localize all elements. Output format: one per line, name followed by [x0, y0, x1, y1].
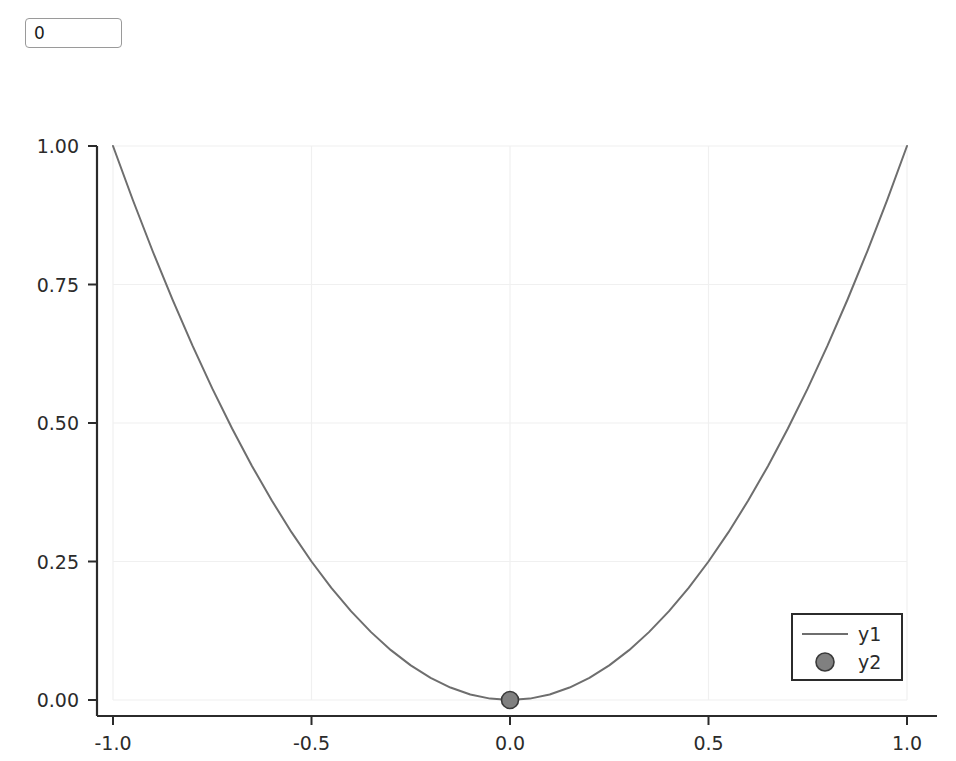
x-axis-tick-label: 0.0 [495, 732, 525, 754]
plot-canvas[interactable]: 0.000.250.500.751.00-1.0-0.50.00.51.0 y1… [0, 56, 956, 761]
legend-entry-label: y2 [858, 651, 881, 673]
y-axis-tick-label: 0.00 [37, 689, 79, 711]
plot-figure: 0.000.250.500.751.00-1.0-0.50.00.51.0 y1… [0, 56, 956, 761]
y-axis-tick-label: 0.25 [37, 551, 79, 573]
x-axis-tick-label: 1.0 [892, 732, 922, 754]
legend-entry-label: y1 [858, 623, 881, 645]
y-axis-tick-label: 1.00 [37, 135, 79, 157]
x-axis-tick-label: 0.5 [693, 732, 723, 754]
legend-box[interactable] [792, 614, 902, 680]
plot-legend[interactable]: y1y2 [792, 614, 902, 680]
y-axis-tick-label: 0.50 [37, 412, 79, 434]
numeric-entry-value: 0 [34, 25, 45, 42]
y-axis-tick-label: 0.75 [37, 274, 79, 296]
x-axis-tick-label: -0.5 [293, 732, 330, 754]
legend-swatch-marker [816, 653, 834, 671]
x-axis-tick-label: -1.0 [94, 732, 131, 754]
series-marker-y2[interactable] [502, 692, 519, 709]
numeric-entry-input[interactable]: 0 [25, 18, 122, 48]
